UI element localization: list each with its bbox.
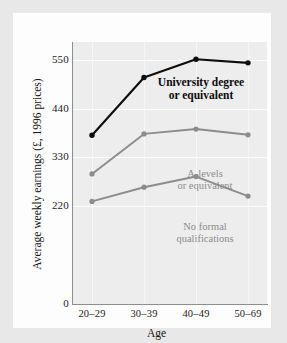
series-label-a-levels: A-levels or equivalent bbox=[153, 168, 257, 192]
gridline bbox=[73, 206, 267, 207]
chart-panel: 0220330440550 20–2930–3940–4950–69 Unive… bbox=[13, 13, 271, 328]
x-tick-label: 30–39 bbox=[114, 308, 174, 319]
y-axis-line bbox=[72, 42, 73, 305]
series-label-university-degree: University degree or equivalent bbox=[131, 76, 271, 102]
x-axis-title: Age bbox=[13, 327, 287, 339]
gridline bbox=[73, 60, 267, 61]
x-tick-label: 50–69 bbox=[218, 308, 278, 319]
x-tick-label: 20–29 bbox=[62, 308, 122, 319]
series-label-line1: University degree bbox=[131, 76, 271, 89]
gridline bbox=[73, 157, 267, 158]
y-axis-title: Average weekly earnings (£, 1996 prices) bbox=[31, 49, 43, 299]
y-tick-labels: 0220330440550 bbox=[41, 13, 69, 343]
y-tick-label: 330 bbox=[43, 150, 69, 162]
gridline bbox=[73, 109, 267, 110]
series-label-line2: or equivalent bbox=[153, 180, 257, 192]
series-label-line2: or equivalent bbox=[131, 89, 271, 102]
series-label-line1: A-levels bbox=[153, 168, 257, 180]
x-tick-label: 40–49 bbox=[166, 308, 226, 319]
x-axis-line bbox=[72, 304, 268, 305]
gridline-vertical bbox=[92, 42, 93, 304]
series-label-line2: qualifications bbox=[147, 233, 263, 245]
chart-figure: 0220330440550 20–2930–3940–4950–69 Unive… bbox=[0, 0, 287, 343]
y-tick-label: 550 bbox=[43, 53, 69, 65]
y-tick-label: 220 bbox=[43, 199, 69, 211]
y-tick-label: 440 bbox=[43, 102, 69, 114]
x-tick-labels: 20–2930–3940–4950–69 bbox=[13, 308, 287, 324]
series-label-no-formal-qualifications: No formal qualifications bbox=[147, 221, 263, 245]
series-label-line1: No formal bbox=[147, 221, 263, 233]
